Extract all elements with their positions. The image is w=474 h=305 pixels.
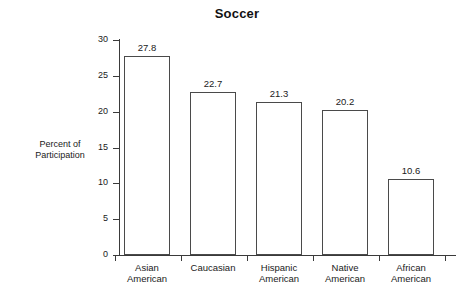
y-tick-label-10: 10 — [68, 177, 108, 187]
x-tick-3 — [313, 256, 314, 261]
y-tick-5 — [113, 219, 119, 220]
x-axis-label-3: NativeAmerican — [308, 262, 382, 284]
x-tick-0 — [115, 256, 116, 261]
y-tick-25 — [113, 76, 119, 77]
chart-title: Soccer — [0, 6, 474, 21]
x-tick-1 — [181, 256, 182, 261]
x-tick-5 — [445, 256, 446, 261]
y-axis-title-line-2: Participation — [35, 150, 85, 160]
x-axis-label-4: AfricanAmerican — [374, 262, 448, 284]
bar-3 — [322, 110, 368, 255]
x-tick-2 — [247, 256, 248, 261]
bar-value-label-2: 21.3 — [244, 88, 314, 99]
x-axis-line — [119, 255, 456, 256]
bar-value-label-0: 27.8 — [112, 42, 182, 53]
y-tick-label-15: 15 — [68, 142, 108, 152]
x-axis-label-2-line-0: Hispanic — [242, 262, 316, 273]
y-tick-label-5: 5 — [68, 213, 108, 223]
x-axis-label-2-line-1: American — [242, 273, 316, 284]
x-axis-label-4-line-0: African — [374, 262, 448, 273]
x-axis-label-0-line-1: American — [110, 273, 184, 284]
y-tick-15 — [113, 148, 119, 149]
bar-0 — [124, 56, 170, 255]
y-tick-10 — [113, 183, 119, 184]
bar-4 — [388, 179, 434, 255]
y-tick-label-0: 0 — [68, 249, 108, 259]
bar-value-label-3: 20.2 — [310, 96, 380, 107]
bar-value-label-4: 10.6 — [376, 165, 446, 176]
y-tick-20 — [113, 112, 119, 113]
x-tick-4 — [379, 256, 380, 261]
x-axis-label-1-line-0: Caucasian — [176, 262, 250, 273]
bar-2 — [256, 102, 302, 255]
x-axis-label-0-line-0: Asian — [110, 262, 184, 273]
y-tick-label-25: 25 — [68, 70, 108, 80]
x-axis-label-0: AsianAmerican — [110, 262, 184, 284]
x-axis-label-4-line-1: American — [374, 273, 448, 284]
x-axis-label-3-line-0: Native — [308, 262, 382, 273]
x-axis-label-3-line-1: American — [308, 273, 382, 284]
y-axis-line — [119, 39, 120, 256]
y-tick-label-20: 20 — [68, 106, 108, 116]
bar-value-label-1: 22.7 — [178, 78, 248, 89]
x-axis-label-2: HispanicAmerican — [242, 262, 316, 284]
x-axis-label-1: Caucasian — [176, 262, 250, 273]
y-tick-0 — [113, 255, 119, 256]
y-tick-label-30: 30 — [68, 34, 108, 44]
bar-chart: Soccer Percent of Participation 05101520… — [0, 0, 474, 305]
bar-1 — [190, 92, 236, 255]
